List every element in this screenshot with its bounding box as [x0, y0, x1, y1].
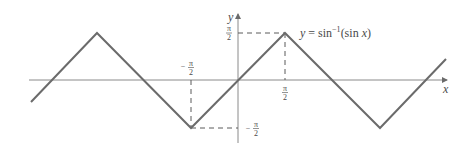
x-tick-label-neg-pi-over-2: − π 2 — [181, 59, 194, 77]
function-label-eq: = sin — [305, 26, 332, 40]
svg-text:2: 2 — [227, 33, 231, 42]
svg-text:π: π — [254, 120, 258, 129]
svg-text:2: 2 — [254, 129, 258, 138]
function-label-rest: (sin — [341, 26, 362, 40]
y-tick-label-neg-pi-over-2: − π 2 — [246, 120, 259, 138]
function-label-close: ) — [367, 26, 371, 40]
x-axis-label: x — [442, 82, 449, 96]
graph-figure: y = sin−1(sin x) y x π 2 − π 2 π 2 − π 2 — [0, 0, 469, 149]
svg-text:π: π — [283, 84, 287, 93]
x-tick-label-pi-over-2: π 2 — [282, 84, 288, 102]
svg-text:2: 2 — [283, 93, 287, 102]
y-tick-label-pi-over-2: π 2 — [226, 24, 232, 42]
svg-text:−: − — [181, 62, 186, 71]
svg-text:2: 2 — [189, 68, 193, 77]
svg-text:−: − — [246, 124, 251, 133]
svg-text:π: π — [227, 24, 231, 33]
svg-text:π: π — [189, 59, 193, 68]
function-label-sup: −1 — [332, 25, 341, 34]
y-axis-label: y — [227, 10, 234, 24]
function-label: y = sin−1(sin x) — [299, 25, 371, 40]
